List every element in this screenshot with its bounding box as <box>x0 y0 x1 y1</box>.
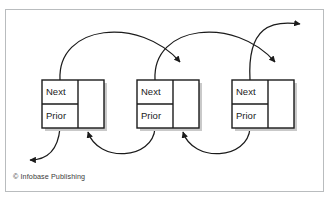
prior-arc-node3-to-node2 <box>183 128 250 154</box>
next-arc-node3-to-tail <box>250 23 300 80</box>
node-next-label: Next <box>141 86 161 97</box>
prior-pointer-arc-group <box>30 128 250 160</box>
node-next-label: Next <box>46 86 66 97</box>
node-prior-label: Prior <box>236 110 256 121</box>
list-node: Next Prior <box>232 80 297 131</box>
node-next-label: Next <box>236 86 256 97</box>
node-prior-label: Prior <box>46 110 66 121</box>
node-prior-label: Prior <box>141 110 161 121</box>
list-node: Next Prior <box>42 80 107 131</box>
next-arc-node2-to-node3 <box>155 32 275 80</box>
prior-arc-node1-to-head <box>30 128 60 160</box>
list-node: Next Prior <box>137 80 202 131</box>
next-pointer-arc-group <box>60 23 300 80</box>
prior-arc-node2-to-node1 <box>88 128 155 154</box>
figure-root: Next Prior Next Prior Next Prior © Infob… <box>0 0 334 203</box>
next-arc-node1-to-node2 <box>60 32 180 80</box>
copyright-credit: © Infobase Publishing <box>13 172 85 181</box>
